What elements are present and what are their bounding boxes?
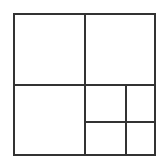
figure-canvas	[0, 0, 168, 167]
square-subdivision-diagram	[0, 0, 168, 167]
